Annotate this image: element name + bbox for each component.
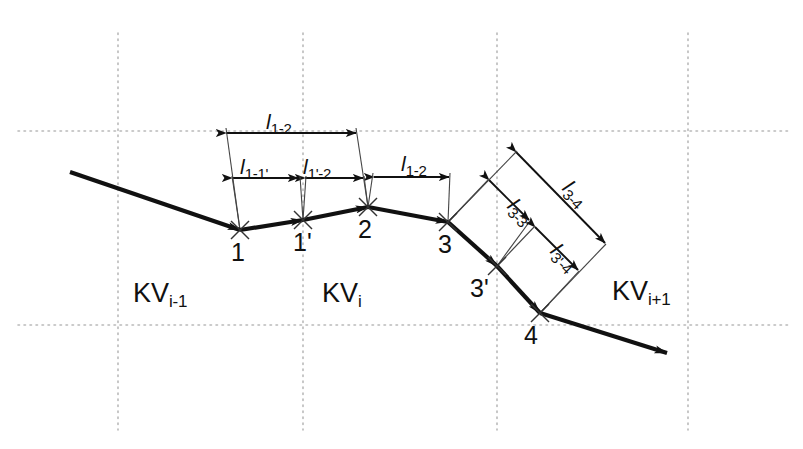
grid-layer	[18, 33, 790, 430]
dimension-label-l-2-3: l1-2	[401, 152, 426, 179]
extension-line-7	[448, 173, 450, 222]
zone-label-kv-right: KVi+1	[612, 276, 671, 310]
zone-label-main: KV	[133, 278, 169, 308]
node-label-2: 2	[358, 215, 372, 244]
zone-label-subscript: i+1	[648, 290, 671, 309]
dimension-label-subscript: 1-1'	[245, 165, 268, 182]
extension-line-5	[364, 176, 368, 207]
polyline-segment-3	[368, 207, 448, 222]
zone-label-kv-left: KVi-1	[133, 278, 187, 312]
dimension-label-l-1p-2: l1'-2	[303, 155, 331, 182]
node-label-3: 3	[438, 230, 452, 259]
node-label-3p: 3'	[470, 274, 489, 303]
dimension-label-l-1-2-upper: l1-2	[266, 110, 291, 137]
dimension-label-l-1-1p: l1-1'	[240, 155, 268, 182]
polyline-segment-6	[540, 313, 667, 353]
node-label-1p: 1'	[293, 228, 312, 257]
diagram-svg	[0, 0, 803, 449]
figure-canvas: 11'233'4KVi-1KViKVi+1l1-2l1-1'l1'-2l1-2l…	[0, 0, 803, 449]
dimension-label-subscript: 1-2	[406, 162, 427, 179]
polyline-segment-0	[70, 172, 240, 230]
node-label-4: 4	[524, 321, 538, 350]
zone-label-main: KV	[612, 276, 648, 306]
dimension-label-subscript: 1-2	[271, 120, 292, 137]
zone-label-subscript: i	[358, 292, 362, 311]
zone-label-kv-center: KVi	[322, 278, 362, 312]
extension-line-2	[232, 176, 240, 230]
zone-label-subscript: i-1	[169, 292, 187, 311]
zone-label-main: KV	[322, 278, 358, 308]
node-label-1: 1	[231, 238, 245, 267]
dimension-label-subscript: 1'-2	[308, 165, 331, 182]
